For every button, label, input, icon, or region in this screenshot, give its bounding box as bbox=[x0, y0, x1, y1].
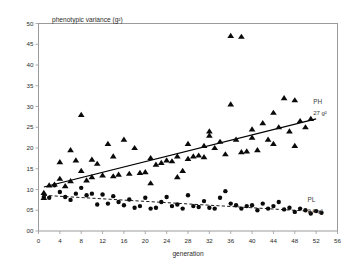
data-point bbox=[154, 206, 158, 210]
data-point bbox=[122, 203, 126, 207]
data-point bbox=[180, 206, 184, 210]
data-point bbox=[164, 195, 168, 199]
y-tick-label: 20 bbox=[27, 144, 34, 151]
data-point bbox=[90, 191, 94, 195]
data-point bbox=[132, 206, 136, 210]
y-tick-label: 10 bbox=[27, 186, 34, 193]
y-tick-label: 25 bbox=[27, 123, 34, 130]
data-point bbox=[255, 208, 259, 212]
data-point bbox=[47, 196, 51, 200]
x-tick-label: 8 bbox=[79, 237, 83, 244]
y-tick-label: 50 bbox=[27, 20, 34, 27]
data-point bbox=[58, 190, 62, 194]
x-tick-label: 52 bbox=[313, 237, 320, 244]
data-point bbox=[202, 199, 206, 203]
x-tick-label: 36 bbox=[227, 237, 234, 244]
data-point bbox=[95, 202, 99, 206]
data-point bbox=[287, 206, 291, 210]
data-point bbox=[293, 210, 297, 214]
data-point bbox=[266, 206, 270, 210]
data-point bbox=[42, 195, 46, 199]
series-label-pl: PL bbox=[307, 196, 315, 203]
series-value-ph: 27 g² bbox=[313, 110, 327, 116]
x-tick-label: 24 bbox=[163, 237, 170, 244]
data-point bbox=[245, 204, 249, 208]
y-tick-label: 30 bbox=[27, 103, 34, 110]
x-tick-label: 56 bbox=[334, 237, 341, 244]
data-point bbox=[63, 195, 67, 199]
data-point bbox=[207, 206, 211, 210]
chart-background bbox=[0, 0, 358, 267]
x-tick-label: 0 bbox=[37, 237, 41, 244]
data-point bbox=[159, 200, 163, 204]
data-point bbox=[138, 204, 142, 208]
scatter-chart: phenotypic variance (g²) generation 0005… bbox=[0, 0, 358, 267]
y-axis-title: phenotypic variance (g²) bbox=[52, 16, 123, 24]
data-point bbox=[84, 193, 88, 197]
chart-canvas: phenotypic variance (g²) generation 0005… bbox=[0, 0, 358, 267]
data-point bbox=[186, 193, 190, 197]
data-point bbox=[79, 186, 83, 190]
x-tick-label: 12 bbox=[99, 237, 106, 244]
data-point bbox=[229, 201, 233, 205]
data-point bbox=[298, 206, 302, 210]
data-point bbox=[234, 203, 238, 207]
x-axis-title: generation bbox=[172, 250, 203, 258]
data-point bbox=[191, 204, 195, 208]
x-tick-label: 40 bbox=[249, 237, 256, 244]
data-point bbox=[261, 201, 265, 205]
data-point bbox=[212, 206, 216, 210]
data-point bbox=[271, 204, 275, 208]
data-point bbox=[170, 204, 174, 208]
y-tick-label: 45 bbox=[27, 40, 34, 47]
data-point bbox=[68, 198, 72, 202]
y-tick-label: 35 bbox=[27, 82, 34, 89]
data-point bbox=[52, 183, 56, 187]
x-tick-label: 44 bbox=[270, 237, 277, 244]
data-point bbox=[223, 189, 227, 193]
x-tick-label: 28 bbox=[185, 237, 192, 244]
data-point bbox=[111, 194, 115, 198]
data-point bbox=[116, 200, 120, 204]
x-tick-label: 48 bbox=[291, 237, 298, 244]
series-value-pl: 2.6 g² bbox=[307, 208, 322, 214]
data-point bbox=[239, 206, 243, 210]
data-point bbox=[282, 207, 286, 211]
data-point bbox=[100, 192, 104, 196]
series-label-ph: PH bbox=[313, 98, 322, 105]
x-tick-label: 32 bbox=[206, 237, 213, 244]
data-point bbox=[127, 197, 131, 201]
data-point bbox=[250, 203, 254, 207]
data-point bbox=[218, 196, 222, 200]
data-point bbox=[277, 200, 281, 204]
x-tick-label: 16 bbox=[120, 237, 127, 244]
y-tick-label: 40 bbox=[27, 61, 34, 68]
y-tick-label: 05 bbox=[27, 206, 34, 213]
x-tick-label: 4 bbox=[58, 237, 62, 244]
data-point bbox=[148, 206, 152, 210]
data-point bbox=[143, 196, 147, 200]
data-point bbox=[196, 205, 200, 209]
y-tick-label: 00 bbox=[27, 227, 34, 234]
data-point bbox=[74, 191, 78, 195]
data-point bbox=[106, 201, 110, 205]
data-point bbox=[175, 202, 179, 206]
x-tick-label: 20 bbox=[142, 237, 149, 244]
y-tick-label: 15 bbox=[27, 165, 34, 172]
